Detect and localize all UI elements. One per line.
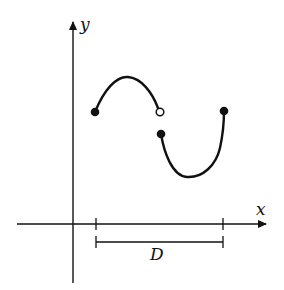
domain-label: D [150, 246, 164, 263]
upper-arc-curve [95, 77, 158, 112]
lower-arc-curve [161, 111, 224, 177]
graph-canvas [0, 0, 284, 290]
open-endpoint [156, 108, 164, 116]
closed-endpoint-middle [157, 130, 166, 139]
function-graph-figure: y x D [0, 0, 284, 290]
x-axis-label: x [256, 201, 266, 218]
closed-endpoint-right [220, 107, 229, 116]
y-axis-label: y [80, 16, 90, 33]
closed-endpoint-left [91, 108, 100, 117]
